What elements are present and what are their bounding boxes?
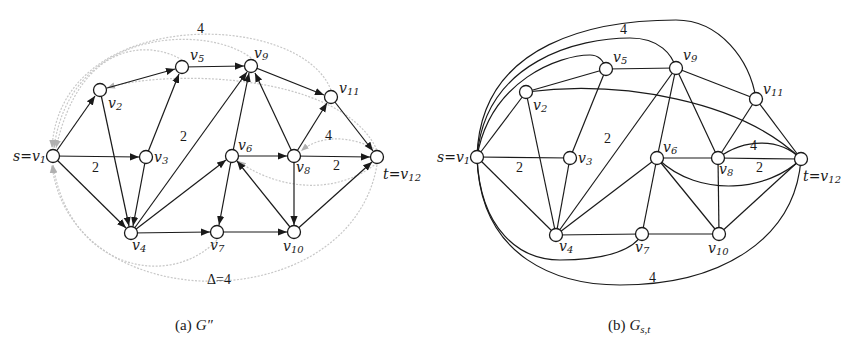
weight-v1-v3: 2 <box>92 160 99 175</box>
node-b-v6 <box>651 152 664 165</box>
caption-a: (a)G″ <box>175 317 213 334</box>
weight-v12-v8-arc: 4 <box>325 128 332 143</box>
node-v5 <box>176 61 189 74</box>
weight-b-bottom-arc: 4 <box>649 270 656 285</box>
weight-top-arc: 4 <box>197 21 204 36</box>
weight-b-v8-v12: 2 <box>756 160 763 175</box>
node-b-v5 <box>600 63 613 76</box>
delta-label: Δ=4 <box>207 272 231 287</box>
weight-v8-v12: 2 <box>333 158 340 173</box>
node-v2 <box>94 84 107 97</box>
label-b-v1: s=v1 <box>437 149 470 166</box>
label-b-v3: v3 <box>578 150 592 167</box>
label-v9: v9 <box>254 45 269 62</box>
label-v11: v11 <box>339 80 360 97</box>
node-v11 <box>325 91 338 104</box>
nodes <box>47 60 384 240</box>
figure-b: 2 2 4 4 2 4 s=v1 v2 v3 v4 v5 v6 <box>437 20 841 335</box>
node-b-v10 <box>713 228 726 241</box>
node-v12 <box>371 151 384 164</box>
node-b-v3 <box>564 152 577 165</box>
label-v8: v8 <box>296 159 310 176</box>
label-v1: s=v1 <box>13 148 46 165</box>
label-b-v4: v4 <box>559 238 573 255</box>
node-labels: s=v1 v2 v3 v4 v5 v6 v7 v8 v9 v10 v11 t=v… <box>13 45 421 255</box>
node-v10 <box>288 226 301 239</box>
label-v7: v7 <box>210 237 225 254</box>
label-b-v2: v2 <box>533 97 547 114</box>
node-v3 <box>140 151 153 164</box>
node-b-v9 <box>670 62 683 75</box>
label-v2: v2 <box>108 95 122 112</box>
node-v9 <box>245 60 258 73</box>
label-b-v10: v10 <box>708 240 729 257</box>
label-b-v8: v8 <box>719 161 733 178</box>
weight-v4-v9: 2 <box>180 129 187 144</box>
node-v6 <box>226 150 239 163</box>
node-v1 <box>47 150 60 163</box>
label-v5: v5 <box>190 47 204 64</box>
label-v4: v4 <box>132 237 146 254</box>
label-v12: t=v12 <box>383 166 421 183</box>
label-v6: v6 <box>238 137 253 154</box>
label-b-v11: v11 <box>763 81 784 98</box>
node-labels-b: s=v1 v2 v3 v4 v5 v6 v7 v8 v9 v10 v11 t=v… <box>437 47 841 257</box>
diagram-canvas: 2 2 2 4 4 Δ=4 s=v1 v2 v3 v4 v5 v6 <box>0 0 850 353</box>
figure-a: 2 2 2 4 4 Δ=4 s=v1 v2 v3 v4 v5 v6 <box>13 21 421 334</box>
weight-b-v8-v12-arc: 4 <box>750 138 757 153</box>
label-v3: v3 <box>154 149 168 166</box>
weight-b-v1-v3: 2 <box>516 160 523 175</box>
weight-b-v4-v9: 2 <box>604 131 611 146</box>
label-v10: v10 <box>283 238 304 255</box>
node-b-v2 <box>520 86 533 99</box>
node-b-v11 <box>750 93 763 106</box>
caption-b: (b)Gs,t <box>608 317 651 335</box>
node-b-v1 <box>471 151 484 164</box>
label-b-v12: t=v12 <box>803 168 841 185</box>
weight-b-top-arc: 4 <box>620 22 627 37</box>
label-b-v7: v7 <box>635 239 650 256</box>
label-b-v6: v6 <box>663 139 678 156</box>
label-b-v9: v9 <box>683 47 698 64</box>
label-b-v5: v5 <box>613 49 627 66</box>
node-b-v12 <box>795 153 808 166</box>
